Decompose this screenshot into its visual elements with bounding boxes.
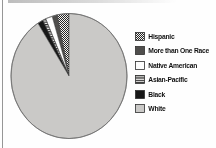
legend-label: Native American [145,62,197,69]
legend-swatch-darkgray [135,46,145,55]
legend-swatch-white [135,61,145,70]
pie-slice-white [11,14,127,139]
legend-label: Hispanic [145,33,174,40]
legend-swatch-lightgray [135,104,145,113]
legend-item: Black [135,90,212,99]
legend-label: Black [145,91,165,98]
legend: HispanicMore than One RaceNative America… [135,32,212,118]
legend-swatch-hstripes [135,75,145,84]
legend-item: Hispanic [135,32,212,41]
legend-label: White [145,105,165,112]
legend-item: White [135,104,212,113]
legend-item: More than One Race [135,46,212,55]
legend-label: Asian-Pacific [145,76,187,83]
legend-swatch-black [135,90,145,99]
legend-item: Asian-Pacific [135,75,212,84]
legend-swatch-checker [135,32,145,41]
legend-label: More than One Race [145,47,209,54]
pie-chart-figure: HispanicMore than One RaceNative America… [0,0,216,148]
legend-item: Native American [135,61,212,70]
